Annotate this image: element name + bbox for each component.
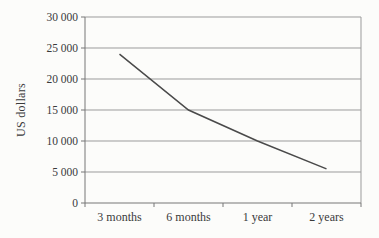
x-category-label: 3 months: [97, 210, 142, 224]
y-tick-label: 15 000: [46, 104, 78, 116]
y-tick-label: 0: [72, 197, 78, 209]
x-category-label: 1 year: [243, 210, 273, 224]
y-tick-label: 30 000: [46, 11, 78, 23]
chart-canvas: 05 00010 00015 00020 00025 00030 0003 mo…: [0, 0, 379, 238]
y-tick-label: 25 000: [46, 42, 78, 54]
line-chart-figure: US dollars 05 00010 00015 00020 00025 00…: [0, 0, 379, 238]
data-line: [120, 54, 327, 169]
y-tick-label: 5 000: [52, 166, 78, 178]
x-category-label: 2 years: [309, 210, 344, 224]
y-axis-title: US dollars: [14, 83, 29, 137]
y-tick-label: 10 000: [46, 135, 78, 147]
x-category-label: 6 months: [166, 210, 211, 224]
y-tick-label: 20 000: [46, 73, 78, 85]
